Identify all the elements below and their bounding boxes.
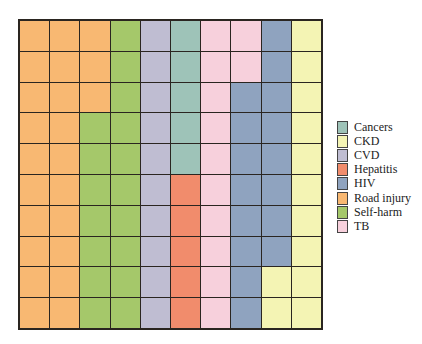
legend-item-hepatitis: Hepatitis [337, 163, 411, 177]
waffle-cell-self-harm [111, 144, 140, 174]
waffle-cell-hiv [231, 237, 260, 267]
waffle-cell-road-injury [80, 83, 109, 113]
waffle-cell-road-injury [50, 206, 79, 236]
waffle-cell-road-injury [80, 21, 109, 51]
legend-item-cvd: CVD [337, 148, 411, 162]
waffle-cell-cancers [171, 83, 200, 113]
waffle-cell-road-injury [20, 237, 49, 267]
waffle-cell-hiv [231, 83, 260, 113]
waffle-cell-self-harm [111, 52, 140, 82]
legend-swatch [337, 163, 348, 176]
legend: CancersCKDCVDHepatitisHIVRoad injurySelf… [337, 120, 411, 234]
legend-swatch [337, 192, 348, 205]
legend-item-road-injury: Road injury [337, 191, 411, 205]
waffle-cell-ckd [292, 113, 321, 143]
waffle-cell-self-harm [80, 206, 109, 236]
legend-swatch [337, 121, 348, 134]
waffle-cell-self-harm [80, 175, 109, 205]
legend-item-hiv: HIV [337, 177, 411, 191]
waffle-cell-road-injury [50, 267, 79, 297]
waffle-cell-cvd [141, 83, 170, 113]
waffle-cell-cancers [171, 144, 200, 174]
waffle-cell-cancers [171, 52, 200, 82]
waffle-cell-ckd [262, 267, 291, 297]
legend-item-cancers: Cancers [337, 120, 411, 134]
legend-item-self-harm: Self-harm [337, 205, 411, 219]
waffle-cell-cvd [141, 175, 170, 205]
waffle-cell-road-injury [20, 298, 49, 328]
waffle-cell-ckd [292, 237, 321, 267]
waffle-cell-ckd [292, 144, 321, 174]
waffle-cell-road-injury [20, 267, 49, 297]
waffle-cell-tb [201, 21, 230, 51]
waffle-cell-hiv [262, 83, 291, 113]
waffle-cell-self-harm [80, 267, 109, 297]
legend-swatch [337, 177, 348, 190]
legend-label: Hepatitis [354, 163, 397, 176]
waffle-cell-cvd [141, 144, 170, 174]
waffle-cell-road-injury [50, 113, 79, 143]
waffle-cell-self-harm [111, 237, 140, 267]
waffle-cell-self-harm [111, 113, 140, 143]
waffle-cell-tb [201, 52, 230, 82]
waffle-cell-ckd [262, 298, 291, 328]
waffle-cell-tb [201, 83, 230, 113]
waffle-cell-cvd [141, 237, 170, 267]
waffle-cell-road-injury [50, 237, 79, 267]
waffle-cell-ckd [292, 83, 321, 113]
waffle-cell-cancers [171, 113, 200, 143]
waffle-cell-hepatitis [171, 237, 200, 267]
legend-swatch [337, 135, 348, 148]
waffle-cell-road-injury [50, 52, 79, 82]
legend-label: TB [354, 220, 369, 233]
waffle-cell-cvd [141, 113, 170, 143]
waffle-cell-tb [201, 175, 230, 205]
waffle-cell-hiv [262, 237, 291, 267]
legend-label: CVD [354, 149, 379, 162]
waffle-cell-ckd [292, 298, 321, 328]
waffle-cell-hiv [231, 175, 260, 205]
waffle-cell-cvd [141, 298, 170, 328]
waffle-chart [18, 19, 323, 330]
waffle-cell-road-injury [20, 206, 49, 236]
waffle-cell-hiv [262, 206, 291, 236]
waffle-cell-self-harm [111, 298, 140, 328]
waffle-cell-hiv [262, 144, 291, 174]
waffle-cell-road-injury [20, 175, 49, 205]
waffle-cell-ckd [292, 21, 321, 51]
waffle-cell-hiv [231, 144, 260, 174]
waffle-cell-hepatitis [171, 175, 200, 205]
waffle-cell-road-injury [50, 21, 79, 51]
waffle-cell-tb [201, 144, 230, 174]
waffle-cell-cancers [171, 21, 200, 51]
legend-item-tb: TB [337, 219, 411, 233]
waffle-cell-road-injury [50, 175, 79, 205]
waffle-cell-tb [231, 52, 260, 82]
waffle-cell-hiv [231, 113, 260, 143]
waffle-cell-road-injury [20, 52, 49, 82]
legend-label: Self-harm [354, 206, 402, 219]
legend-label: Road injury [354, 192, 411, 205]
waffle-cell-cvd [141, 52, 170, 82]
waffle-cell-tb [201, 206, 230, 236]
waffle-cell-road-injury [50, 298, 79, 328]
waffle-cell-self-harm [111, 21, 140, 51]
waffle-cell-ckd [292, 175, 321, 205]
waffle-cell-tb [201, 237, 230, 267]
waffle-cell-hiv [231, 298, 260, 328]
legend-swatch [337, 149, 348, 162]
waffle-cell-tb [231, 21, 260, 51]
waffle-cell-road-injury [80, 52, 109, 82]
waffle-cell-self-harm [111, 206, 140, 236]
waffle-cell-tb [201, 267, 230, 297]
waffle-cell-hiv [262, 52, 291, 82]
waffle-cell-self-harm [80, 298, 109, 328]
waffle-cell-hepatitis [171, 206, 200, 236]
waffle-cell-hiv [231, 206, 260, 236]
waffle-cell-road-injury [20, 83, 49, 113]
waffle-cell-ckd [292, 206, 321, 236]
waffle-cell-road-injury [20, 113, 49, 143]
waffle-cell-self-harm [111, 175, 140, 205]
waffle-cell-hepatitis [171, 298, 200, 328]
waffle-cell-road-injury [20, 21, 49, 51]
